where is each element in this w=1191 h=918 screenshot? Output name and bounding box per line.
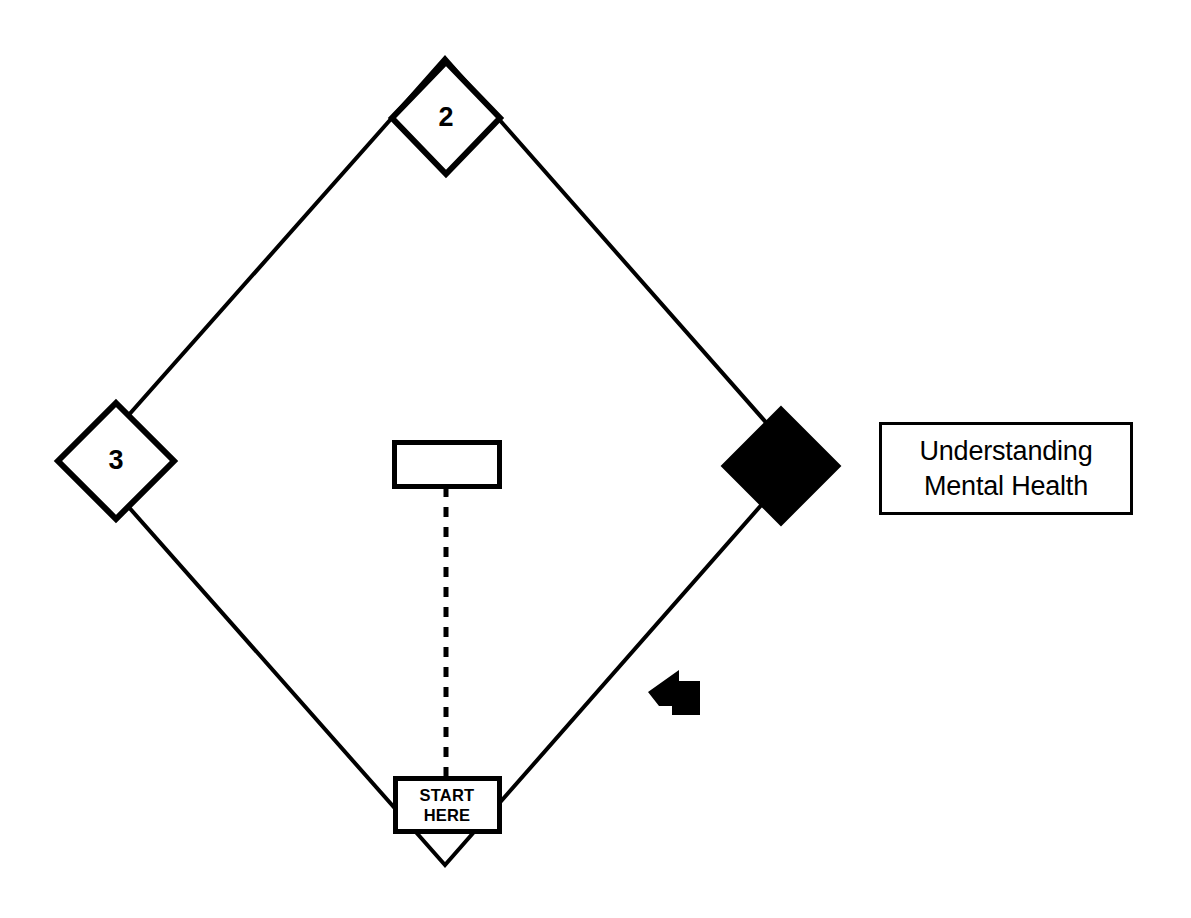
- station-2-label: 2: [412, 100, 480, 136]
- filled-diamond-station[interactable]: [722, 407, 840, 525]
- title-card-label: Understanding Mental Health: [881, 424, 1131, 513]
- start-here-line-1: START: [420, 785, 475, 805]
- title-card-line-1: Understanding: [919, 434, 1092, 469]
- arrow-pointer-icon: [648, 670, 700, 715]
- start-here-line-2: HERE: [424, 805, 471, 825]
- diagram-stage: 2 3 START HERE Understanding Mental Heal…: [0, 0, 1191, 918]
- title-card-line-2: Mental Health: [924, 469, 1088, 504]
- start-here-label: START HERE: [395, 782, 499, 828]
- center-blank-card[interactable]: [395, 443, 500, 487]
- station-3-label: 3: [82, 443, 150, 479]
